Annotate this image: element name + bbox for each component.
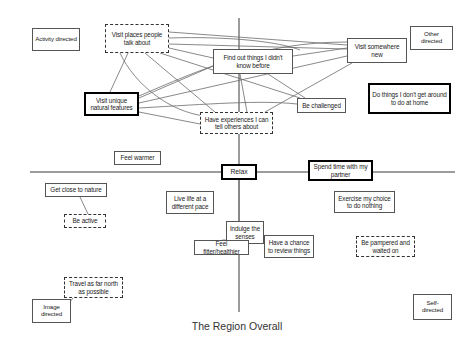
figure-title: The Region Overall: [0, 320, 474, 332]
node-label: Other directed: [411, 31, 452, 45]
node-get-close-to-nature[interactable]: Get close to nature: [45, 183, 107, 197]
node-be-challenged[interactable]: Be challenged: [297, 98, 346, 113]
node-be-pampered-and-waited-on[interactable]: Be pampered and waited on: [356, 236, 415, 257]
node-label: Self- directed: [414, 300, 451, 314]
node-find-out-things-i-didnt-know-before[interactable]: Find out things I didn't know before: [213, 49, 293, 74]
node-label: Spend time with my partner: [310, 163, 371, 177]
node-label: Visit somewhere new: [348, 43, 406, 57]
node-be-active[interactable]: Be active: [64, 214, 106, 228]
node-spend-time-with-my-partner[interactable]: Spend time with my partner: [308, 160, 373, 181]
diagram-canvas: Activity directedVisit places people tal…: [0, 0, 474, 346]
node-relax[interactable]: Relax: [221, 164, 257, 180]
connector-find-out-things-i-didnt-know-before-to-have-experiences-i-can-tell-others-about: [240, 74, 247, 112]
node-do-things-i-dont-get-around-to-do-at-home[interactable]: Do things I don't get around to do at ho…: [368, 83, 451, 114]
connector-visit-places-people-talk-about-to-visit-unique-natural-features: [110, 53, 128, 92]
node-live-life-at-a-different-pace[interactable]: Live life at a different pace: [166, 191, 214, 214]
node-activity-directed[interactable]: Activity directed: [32, 28, 80, 51]
node-label: Relax: [223, 168, 255, 176]
node-label: Find out things I didn't know before: [214, 54, 292, 68]
node-visit-places-people-talk-about[interactable]: Visit places people talk about: [105, 24, 169, 53]
node-have-a-chance-to-review-things[interactable]: Have a chance to review things: [264, 235, 314, 258]
connector-visit-places-people-talk-about-to-visit-somewhere-new: [169, 32, 347, 45]
node-have-experiences-i-can-tell-others-about[interactable]: Have experiences I can tell others about: [200, 112, 273, 134]
node-label: Have experiences I can tell others about: [201, 116, 272, 130]
node-label: Visit places people talk about: [106, 31, 168, 45]
node-label: Be pampered and waited on: [357, 239, 414, 253]
connector-visit-places-people-talk-about-to-have-experiences-i-can-tell-others-about: [145, 53, 215, 112]
node-label: Be active: [65, 217, 105, 224]
node-label: Do things I don't get around to do at ho…: [370, 91, 449, 105]
node-label: Feel warmer: [115, 154, 160, 161]
node-label: Travel as far north as possible: [65, 280, 122, 294]
connector-visit-unique-natural-features-to-have-experiences-i-can-tell-others-about: [139, 112, 200, 124]
node-travel-as-far-north-as-possible[interactable]: Travel as far north as possible: [64, 277, 123, 298]
node-label: Exercise my choice to do nothing: [335, 195, 394, 209]
node-label: Have a chance to review things: [265, 239, 313, 253]
node-visit-somewhere-new[interactable]: Visit somewhere new: [347, 38, 407, 63]
connector-visit-unique-natural-features-to-be-challenged: [139, 102, 297, 108]
connector-find-out-things-i-didnt-know-before-to-be-challenged: [268, 74, 305, 98]
node-label: Visit unique natural features: [86, 97, 137, 111]
node-exercise-my-choice-to-do-nothing[interactable]: Exercise my choice to do nothing: [334, 191, 395, 213]
node-label: Feel fitter/healthier: [195, 240, 248, 254]
node-label: Live life at a different pace: [167, 195, 213, 209]
node-label: Indulge the senses: [227, 225, 263, 239]
node-feel-fitter-healthier[interactable]: Feel fitter/healthier: [194, 240, 249, 255]
connector-visit-unique-natural-features-to-find-out-things-i-didnt-know-before: [139, 66, 213, 98]
node-visit-unique-natural-features[interactable]: Visit unique natural features: [84, 92, 139, 116]
node-label: Activity directed: [33, 36, 79, 43]
connector-find-out-things-i-didnt-know-before-to-visit-somewhere-new: [293, 48, 347, 56]
node-label: Image directed: [33, 304, 70, 318]
node-self-directed[interactable]: Self- directed: [413, 294, 452, 320]
node-label: Get close to nature: [46, 186, 106, 193]
node-other-directed[interactable]: Other directed: [410, 26, 453, 50]
node-feel-warmer[interactable]: Feel warmer: [114, 151, 161, 165]
connector-get-close-to-nature-to-be-active: [80, 197, 88, 214]
connector-visit-places-people-talk-about-to-find-out-things-i-didnt-know-before: [169, 48, 213, 58]
node-label: Be challenged: [298, 102, 345, 109]
